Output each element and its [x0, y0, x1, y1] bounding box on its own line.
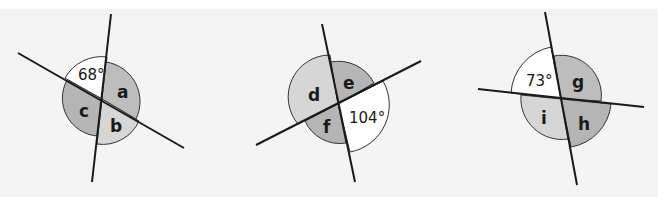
label-c: c	[79, 101, 89, 121]
label-f: f	[323, 117, 331, 137]
figure-3: 73° g h i	[478, 12, 644, 185]
label-a: a	[117, 82, 128, 102]
label-d: d	[308, 85, 320, 105]
figure-1: 68° a b c	[18, 14, 184, 182]
label-68: 68°	[78, 66, 105, 84]
label-h: h	[578, 114, 590, 134]
label-i: i	[541, 108, 547, 128]
intersecting-lines-diagram: 68° a b c 104° d e f 73° g h i	[0, 0, 658, 197]
label-g: g	[572, 72, 584, 92]
figure-2: 104° d e f	[256, 24, 421, 182]
label-104: 104°	[349, 109, 385, 127]
label-73: 73°	[526, 72, 553, 90]
label-b: b	[110, 116, 122, 136]
label-e: e	[343, 73, 355, 93]
